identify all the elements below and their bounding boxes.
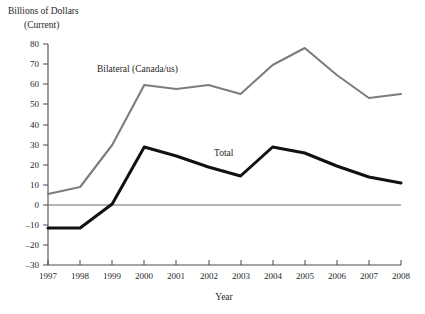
- y-tick-label: 20: [30, 160, 40, 170]
- x-tick-label: 1997: [39, 271, 58, 281]
- x-tick-label: 2003: [232, 271, 251, 281]
- x-tick-label: 2000: [135, 271, 154, 281]
- x-tick-label: 2005: [296, 271, 315, 281]
- y-axis-ticks: [43, 44, 48, 265]
- chart-container: Billions of Dollars (Current) 80 70 60: [0, 0, 425, 314]
- x-tick-label: 2006: [328, 271, 347, 281]
- y-tick-label: –10: [25, 220, 40, 230]
- x-tick-label: 2008: [392, 271, 411, 281]
- y-axis-caption-line1: Billions of Dollars: [8, 6, 79, 16]
- y-axis-caption-line2: (Current): [24, 20, 59, 31]
- y-tick-label: 70: [30, 59, 40, 69]
- y-tick-label: 60: [30, 79, 40, 89]
- y-tick-label: 40: [30, 120, 40, 130]
- y-tick-label: 0: [35, 200, 40, 210]
- x-tick-label: 1999: [103, 271, 122, 281]
- y-tick-label: 50: [30, 99, 40, 109]
- y-tick-label: –20: [25, 240, 40, 250]
- y-tick-label: 80: [30, 39, 40, 49]
- y-tick-label: 10: [30, 180, 40, 190]
- x-axis-title: Year: [215, 292, 233, 302]
- x-axis-ticks: [48, 260, 401, 265]
- series-label-bilateral: Bilateral (Canada/us): [97, 64, 178, 75]
- x-tick-label: 2007: [360, 271, 379, 281]
- series-label-total: Total: [214, 148, 234, 158]
- y-tick-label: 30: [30, 140, 40, 150]
- y-tick-label: –30: [25, 260, 40, 270]
- x-tick-label: 2004: [264, 271, 283, 281]
- x-tick-label: 1998: [71, 271, 90, 281]
- x-tick-label: 2001: [167, 271, 185, 281]
- x-axis-tick-labels: 1997 1998 1999 2000 2001 2002 2003 2004 …: [39, 271, 411, 281]
- x-tick-label: 2002: [200, 271, 218, 281]
- y-axis-tick-labels: 80 70 60 50 40 30 20 10 0 –10 –20 –30: [25, 39, 40, 270]
- line-chart: Billions of Dollars (Current) 80 70 60: [0, 0, 425, 314]
